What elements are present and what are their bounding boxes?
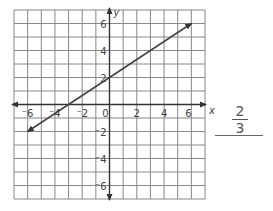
svg-text:x: x [208,105,215,116]
svg-text:⁻4: ⁻4 [95,154,107,165]
svg-text:4: 4 [161,108,167,119]
svg-text:⁻6: ⁻6 [95,181,107,192]
svg-text:6: 6 [185,108,191,119]
svg-text:4: 4 [100,46,106,57]
svg-text:⁻2: ⁻2 [95,127,107,138]
svg-text:⁻2: ⁻2 [76,108,88,119]
svg-text:2: 2 [134,108,140,119]
svg-text:⁻6: ⁻6 [22,108,34,119]
slope-fraction: 2 3 [230,104,250,135]
svg-text:0: 0 [102,108,108,119]
svg-text:6: 6 [100,19,106,30]
svg-text:y: y [113,7,121,18]
fraction-denominator: 3 [230,121,250,135]
answer-line [215,135,263,136]
fraction-numerator: 2 [230,104,250,118]
tick-labels: ⁻6⁻4⁻20246642⁻2⁻4⁻6xy [22,7,215,192]
